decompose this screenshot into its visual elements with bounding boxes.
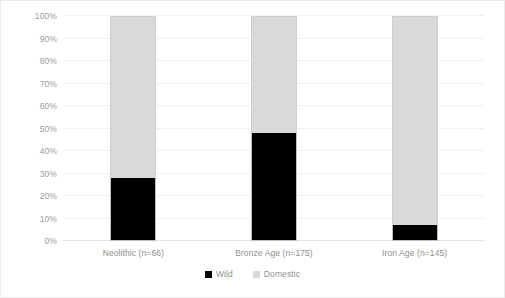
bar-segment-wild[interactable] [110, 178, 156, 241]
legend-swatch-domestic-icon [253, 271, 260, 278]
bar-stack [110, 16, 156, 241]
y-axis-tick-label: 0% [17, 236, 57, 246]
y-axis-tick-label: 40% [17, 146, 57, 156]
y-axis-tick-label: 60% [17, 101, 57, 111]
y-axis-tick-label: 10% [17, 214, 57, 224]
bar-stack [392, 16, 438, 241]
bar-group[interactable] [251, 16, 297, 241]
bar-segment-domestic[interactable] [392, 16, 438, 225]
legend-item-domestic[interactable]: Domestic [253, 269, 300, 279]
chart-container: 0%10%20%30%40%50%60%70%80%90%100% Neolit… [0, 0, 505, 298]
y-axis-tick-label: 20% [17, 191, 57, 201]
bar-segment-domestic[interactable] [251, 16, 297, 133]
bar-group[interactable] [110, 16, 156, 241]
plot-area [63, 16, 485, 241]
y-axis-tick-label: 70% [17, 79, 57, 89]
legend-swatch-wild-icon [205, 271, 212, 278]
bar-segment-wild[interactable] [251, 133, 297, 241]
x-axis-category-label: Bronze Age (n=175) [204, 248, 345, 258]
y-axis-tick-label: 100% [17, 11, 57, 21]
x-axis-category-label: Neolithic (n=66) [63, 248, 204, 258]
legend-item-wild[interactable]: Wild [205, 269, 233, 279]
legend-label: Wild [216, 269, 233, 279]
legend-label: Domestic [264, 269, 300, 279]
chart-legend: WildDomestic [1, 269, 504, 279]
bar-segment-wild[interactable] [392, 225, 438, 241]
bar-stack [251, 16, 297, 241]
y-axis-tick-label: 50% [17, 124, 57, 134]
bar-segment-domestic[interactable] [110, 16, 156, 178]
x-axis-category-label: Iron Age (n=145) [344, 248, 485, 258]
y-axis-tick-label: 90% [17, 34, 57, 44]
y-axis-tick-label: 30% [17, 169, 57, 179]
bar-group[interactable] [392, 16, 438, 241]
y-axis-tick-label: 80% [17, 56, 57, 66]
